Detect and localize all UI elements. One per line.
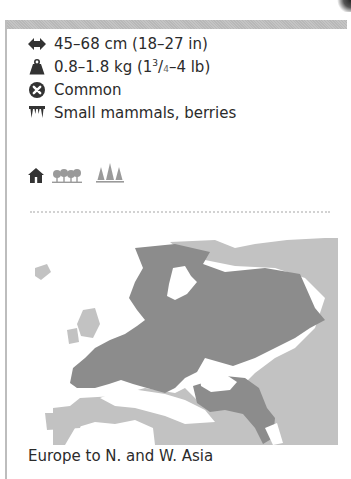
fact-weight: 0.8–1.8 kg (13/4–4 lb) — [28, 55, 236, 78]
habitat-icons — [28, 163, 124, 187]
range-caption: Europe to N. and W. Asia — [28, 447, 213, 465]
weight-icon — [28, 59, 46, 75]
page-corner-shadow — [337, 0, 351, 12]
status-value: Common — [54, 81, 122, 99]
range-map — [25, 238, 338, 445]
facts-list: 45–68 cm (18–27 in) 0.8–1.8 kg (13/4–4 l… — [28, 32, 236, 124]
length-arrows-icon — [28, 36, 46, 52]
status-common-icon — [28, 82, 46, 98]
teeth-icon — [28, 105, 46, 121]
diet-value: Small mammals, berries — [54, 104, 236, 122]
weight-value: 0.8–1.8 kg (13/4–4 lb) — [54, 58, 210, 76]
section-divider — [30, 211, 330, 213]
fact-length: 45–68 cm (18–27 in) — [28, 32, 236, 55]
deciduous-forest-icon — [52, 168, 82, 187]
coniferous-forest-icon — [96, 163, 124, 187]
card-header-bar — [7, 20, 347, 29]
house-icon — [28, 168, 44, 187]
fact-status: Common — [28, 78, 236, 101]
fact-diet: Small mammals, berries — [28, 101, 236, 124]
length-value: 45–68 cm (18–27 in) — [54, 35, 208, 53]
